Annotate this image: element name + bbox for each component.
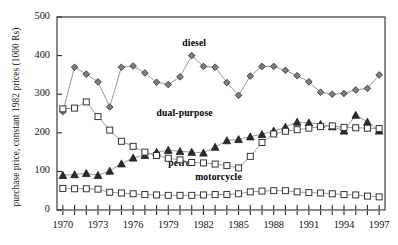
plot-area [0, 0, 398, 245]
chart-container: purchase price, constant 1982 prices (10… [0, 0, 398, 245]
data-series-group [59, 52, 383, 200]
plot-frame [57, 17, 385, 210]
